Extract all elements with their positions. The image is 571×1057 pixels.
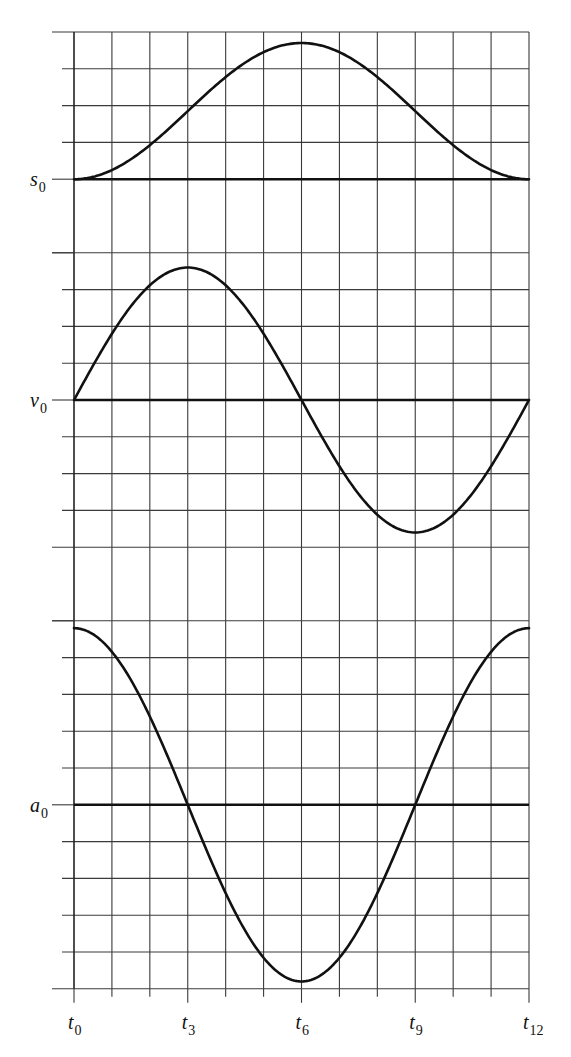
motion-graphs-chart: s0v0a0t0t3t6t9t12 [0, 0, 571, 1057]
position-axis-label: s0 [30, 168, 46, 195]
x-tick-label-t12: t12 [523, 1011, 544, 1038]
x-tick-label-t3: t3 [182, 1011, 196, 1038]
x-tick-label-t6: t6 [296, 1011, 310, 1038]
velocity-axis-label: v0 [30, 389, 47, 416]
x-tick-label-t9: t9 [409, 1011, 423, 1038]
acceleration-axis-label: a0 [30, 794, 48, 821]
x-tick-label-t0: t0 [68, 1011, 82, 1038]
axis-labels: s0v0a0t0t3t6t9t12 [30, 168, 544, 1038]
grid [52, 32, 529, 1003]
